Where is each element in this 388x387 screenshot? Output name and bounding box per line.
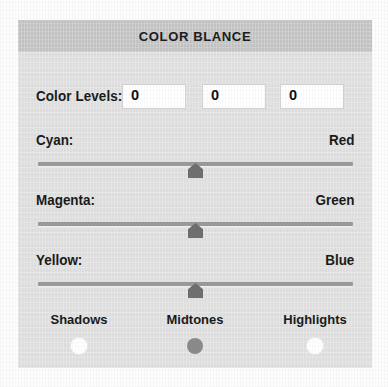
slider-row-cyan-red: Cyan: Red	[18, 132, 372, 188]
slider-row-yellow-blue: Yellow: Blue	[18, 252, 372, 308]
color-levels-label: Color Levels:	[36, 88, 122, 104]
color-balance-dialog: COLOR BLANCE Color Levels: 0 0 0 Cyan: R…	[18, 20, 372, 368]
slider-row-magenta-green: Magenta: Green	[18, 192, 372, 248]
color-level-value-2: 0	[289, 87, 297, 103]
color-level-input-magenta-green[interactable]: 0	[202, 84, 266, 109]
dialog-title: COLOR BLANCE	[139, 29, 251, 44]
tone-label-midtones: Midtones	[142, 312, 248, 327]
tone-label-highlights: Highlights	[262, 312, 368, 327]
radio-midtones[interactable]	[187, 338, 203, 354]
radio-highlights[interactable]	[307, 338, 323, 354]
slider-label-red: Red	[329, 132, 354, 148]
screenshot-root: COLOR BLANCE Color Levels: 0 0 0 Cyan: R…	[0, 0, 388, 387]
tone-option-shadows[interactable]: Shadows	[24, 312, 134, 364]
tone-option-highlights[interactable]: Highlights	[260, 312, 370, 364]
slider-label-yellow: Yellow:	[36, 252, 82, 268]
color-level-input-yellow-blue[interactable]: 0	[280, 84, 344, 109]
tone-option-midtones[interactable]: Midtones	[140, 312, 250, 364]
color-level-value-1: 0	[211, 87, 219, 103]
tone-label-shadows: Shadows	[26, 312, 132, 327]
tone-balance-options: Shadows Midtones Highlights	[18, 312, 372, 364]
color-level-value-0: 0	[131, 87, 139, 103]
color-levels-row: Color Levels: 0 0 0	[18, 84, 372, 114]
dialog-titlebar: COLOR BLANCE	[18, 20, 372, 52]
slider-label-blue: Blue	[325, 252, 354, 268]
slider-label-cyan: Cyan:	[36, 132, 73, 148]
color-level-input-cyan-red[interactable]: 0	[122, 84, 186, 109]
radio-shadows[interactable]	[71, 338, 87, 354]
slider-label-magenta: Magenta:	[36, 192, 95, 208]
slider-label-green: Green	[315, 192, 354, 208]
